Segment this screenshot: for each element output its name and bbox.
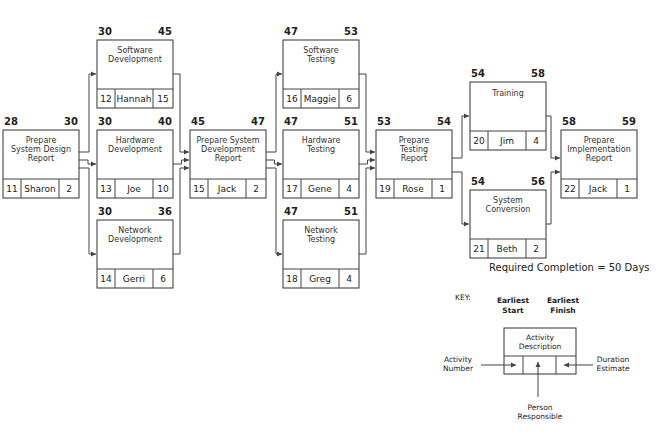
duration-estimate: 15 <box>157 94 168 104</box>
earliest-finish: 56 <box>531 176 545 187</box>
arrow-16-to-19 <box>359 74 375 152</box>
arrow-11-to-12 <box>79 74 96 152</box>
arrow-20-to-22 <box>546 116 560 158</box>
activity-node-14: 3036NetworkDevelopment14Gerri6 <box>97 206 173 288</box>
arrow-12-to-15 <box>173 74 189 152</box>
activity-number: 16 <box>286 94 298 104</box>
activity-description: Hardware <box>116 136 155 145</box>
activity-description: Prepare System <box>196 136 259 145</box>
activity-number: 13 <box>100 184 111 194</box>
person-responsible: Jack <box>588 184 608 194</box>
arrow-11-to-13 <box>79 160 96 164</box>
activity-description: Software <box>303 46 338 55</box>
arrow-14-to-15 <box>173 168 189 254</box>
duration-estimate: 4 <box>346 184 352 194</box>
arrow-15-to-17 <box>266 160 282 164</box>
earliest-start: 45 <box>191 116 205 127</box>
activity-number: 11 <box>6 184 17 194</box>
activity-description: System Design <box>11 145 71 154</box>
activity-description: Development <box>108 55 162 64</box>
activity-description: Prepare <box>399 136 430 145</box>
arrow-17-to-19 <box>359 160 375 164</box>
activity-description: Testing <box>399 145 428 154</box>
earliest-start: 54 <box>471 176 485 187</box>
arrow-13-to-15 <box>173 160 189 164</box>
duration-estimate: 1 <box>439 184 445 194</box>
duration-estimate: 6 <box>160 274 166 284</box>
required-completion-note: Required Completion = 50 Days <box>489 262 650 273</box>
earliest-finish: 59 <box>622 116 636 127</box>
activity-description: Network <box>304 226 338 235</box>
activity-number: 20 <box>473 136 485 146</box>
activity-description: System <box>493 196 523 205</box>
person-responsible: Beth <box>497 244 518 254</box>
activity-description: Hardware <box>302 136 341 145</box>
activity-description: Prepare <box>26 136 57 145</box>
duration-estimate: 4 <box>533 136 539 146</box>
earliest-finish: 36 <box>158 206 172 217</box>
earliest-start: 28 <box>4 116 18 127</box>
activity-description: Report <box>401 154 428 163</box>
arrow-11-to-14 <box>79 168 96 254</box>
activity-description: Testing <box>306 55 335 64</box>
key-person-responsible: Person <box>527 403 552 412</box>
duration-estimate: 10 <box>157 184 169 194</box>
activity-node-11: 2830PrepareSystem DesignReport11Sharon2 <box>3 116 79 198</box>
activity-description: Training <box>491 89 524 98</box>
earliest-start: 30 <box>98 26 112 37</box>
arrow-19-to-20 <box>452 116 469 158</box>
key-title: KEY: <box>455 293 471 302</box>
activity-description: Prepare <box>584 136 615 145</box>
activity-description: Development <box>108 235 162 244</box>
arrow-21-to-22 <box>546 172 560 224</box>
key-activity-description: Activity <box>526 333 555 342</box>
activity-number: 19 <box>379 184 391 194</box>
arrow-15-to-18 <box>266 168 282 254</box>
activity-description: Report <box>215 154 242 163</box>
activity-description: Implementation <box>567 145 631 154</box>
earliest-finish: 45 <box>158 26 172 37</box>
activity-number: 12 <box>100 94 111 104</box>
earliest-finish: 40 <box>158 116 172 127</box>
key-duration-estimate: Duration <box>597 355 630 364</box>
earliest-finish: 47 <box>251 116 265 127</box>
person-responsible: Gerri <box>123 274 145 284</box>
activity-node-18: 4751NetworkTesting18Greg4 <box>283 206 359 288</box>
legend-key: KEY:EarliestStartEarliestFinishActivityD… <box>443 293 630 421</box>
arrow-19-to-21 <box>452 172 469 224</box>
earliest-start: 47 <box>284 26 298 37</box>
earliest-start: 58 <box>562 116 576 127</box>
person-responsible: Jack <box>217 184 237 194</box>
duration-estimate: 1 <box>624 184 630 194</box>
activity-number: 18 <box>286 274 298 284</box>
person-responsible: Hannah <box>117 94 152 104</box>
earliest-finish: 53 <box>344 26 358 37</box>
arrow-15-to-16 <box>266 74 282 152</box>
key-earliest-start: Earliest <box>497 296 530 305</box>
earliest-finish: 54 <box>437 116 451 127</box>
activity-node-13: 3040HardwareDevelopment13Joe10 <box>97 116 173 198</box>
activity-description: Software <box>117 46 152 55</box>
activity-node-16: 4753SoftwareTesting16Maggie6 <box>283 26 359 108</box>
activity-node-15: 4547Prepare SystemDevelopmentReport15Jac… <box>190 116 266 198</box>
activity-description: Report <box>28 154 55 163</box>
person-responsible: Maggie <box>304 94 337 104</box>
activity-node-17: 4751HardwareTesting17Gene4 <box>283 116 359 198</box>
earliest-finish: 58 <box>531 68 545 79</box>
key-activity-description: Description <box>519 342 562 351</box>
duration-estimate: 2 <box>66 184 72 194</box>
activity-node-21: 5456SystemConversion21Beth2 <box>470 176 546 258</box>
network-diagram: 2830PrepareSystem DesignReport11Sharon23… <box>0 0 670 445</box>
duration-estimate: 6 <box>346 94 352 104</box>
earliest-start: 30 <box>98 206 112 217</box>
person-responsible: Sharon <box>24 184 56 194</box>
activity-node-20: 5458Training20Jim4 <box>470 68 546 150</box>
activity-number: 15 <box>193 184 204 194</box>
key-duration-estimate: Estimate <box>596 364 630 373</box>
key-activity-number: Number <box>443 364 474 373</box>
activity-description: Development <box>201 145 255 154</box>
earliest-finish: 51 <box>344 206 358 217</box>
person-responsible: Joe <box>126 184 141 194</box>
activity-number: 17 <box>286 184 297 194</box>
person-responsible: Rose <box>402 184 424 194</box>
